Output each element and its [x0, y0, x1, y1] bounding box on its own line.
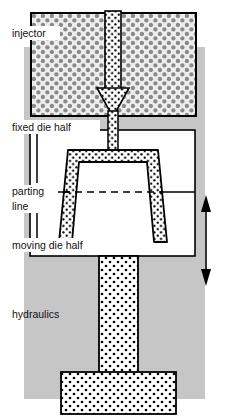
- melt-flow-arrow-shaft: [105, 11, 121, 89]
- fixed-die-half-label: fixed die half: [12, 121, 71, 133]
- moving-die-half-label: moving die half: [12, 239, 83, 251]
- sprue-channel: [108, 111, 118, 151]
- parting-line-label-row1: parting: [12, 185, 44, 197]
- hydraulic-ram-base: [61, 372, 176, 414]
- machine-cross-section-diagram: injector fixed die half parting line mov…: [0, 0, 225, 417]
- diagram-root: injector fixed die half parting line mov…: [0, 0, 225, 417]
- hydraulic-ram-stem: [99, 256, 138, 374]
- parting-line-label-row2: line: [12, 200, 29, 212]
- hydraulics-label: hydraulics: [12, 308, 59, 320]
- injector-label: injector: [12, 27, 46, 39]
